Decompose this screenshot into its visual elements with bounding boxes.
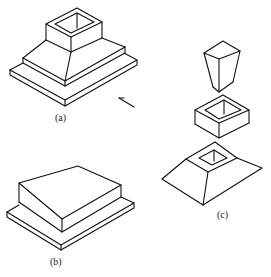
label-b: (b) <box>50 256 62 267</box>
figure-c <box>162 41 262 205</box>
view-direction-arrow-icon <box>119 98 134 107</box>
figure-a-collar <box>46 8 102 52</box>
figure-b <box>7 166 134 250</box>
figure-c-collar <box>195 95 249 138</box>
figure-a <box>10 8 137 107</box>
figure-c-insert <box>204 41 240 92</box>
drawing-canvas <box>0 0 271 277</box>
label-a: (a) <box>55 112 66 123</box>
figure-c-frustum-base <box>162 142 262 205</box>
label-c: (c) <box>217 209 228 220</box>
